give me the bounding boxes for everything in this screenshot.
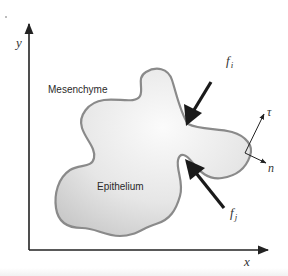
- stray-dot: [5, 16, 7, 18]
- force-fj-subscript: j: [235, 212, 238, 222]
- force-arrow-fi: [184, 82, 211, 126]
- force-fi-label: fi: [226, 54, 233, 67]
- mesenchyme-label: Mesenchyme: [48, 85, 107, 95]
- force-fi-symbol: f: [226, 53, 230, 68]
- y-axis-label: y: [16, 36, 22, 49]
- tangent-label: τ: [267, 106, 271, 118]
- epithelium-label: Epithelium: [97, 182, 144, 192]
- force-fj-label: fj: [230, 206, 237, 219]
- epithelium-force-diagram: [0, 0, 288, 276]
- force-fj-symbol: f: [230, 205, 234, 220]
- page-edge-shadow: [0, 268, 288, 276]
- normal-label: n: [268, 162, 274, 174]
- x-axis-label: x: [244, 255, 250, 268]
- force-fi-subscript: i: [231, 60, 234, 70]
- tangent-vector: [245, 114, 264, 153]
